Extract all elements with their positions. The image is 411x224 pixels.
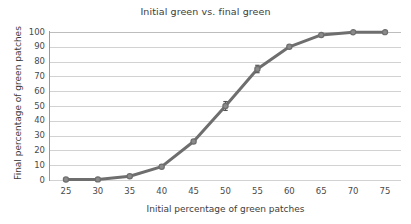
y-tick-label: 30 (5, 131, 45, 140)
x-tick-labels: 2530354045505560657075 (50, 186, 401, 200)
data-point-marker (351, 30, 356, 35)
data-point-marker (127, 174, 132, 179)
chart-title: Initial green vs. final green (0, 6, 411, 17)
x-tick-label: 55 (242, 186, 272, 196)
data-point-marker (287, 44, 292, 49)
y-tick-label: 40 (5, 116, 45, 125)
data-point-marker (159, 164, 164, 169)
x-tick-label: 25 (51, 186, 81, 196)
y-tick-label: 10 (5, 161, 45, 170)
y-tick-label: 50 (5, 102, 45, 111)
data-point-marker (319, 32, 324, 37)
y-tick-label: 70 (5, 72, 45, 81)
data-point-marker (95, 177, 100, 182)
x-tick-label: 35 (115, 186, 145, 196)
data-point-marker (382, 30, 387, 35)
data-point-marker (191, 139, 196, 144)
y-tick-label: 80 (5, 57, 45, 66)
y-tick-label: 60 (5, 87, 45, 96)
x-axis-title: Initial percentage of green patches (50, 204, 401, 214)
data-series-line (50, 32, 401, 180)
y-tick-label: 90 (5, 42, 45, 51)
x-tick-label: 30 (83, 186, 113, 196)
y-tick-label: 0 (5, 176, 45, 185)
data-point-marker (223, 103, 228, 108)
x-tick-label: 70 (338, 186, 368, 196)
y-tick-label: 20 (5, 146, 45, 155)
series-markers (63, 30, 387, 183)
y-tick-label: 100 (5, 28, 45, 37)
data-point-marker (255, 66, 260, 71)
data-point-marker (63, 177, 68, 182)
x-tick-label: 75 (370, 186, 400, 196)
x-tick-label: 45 (179, 186, 209, 196)
x-tick-label: 65 (306, 186, 336, 196)
x-tick-label: 40 (147, 186, 177, 196)
plot-area (50, 32, 401, 180)
x-tick-label: 60 (274, 186, 304, 196)
chart-figure: Initial green vs. final green Final perc… (0, 0, 411, 224)
y-tick-labels: 0102030405060708090100 (0, 32, 45, 180)
x-tick-label: 50 (211, 186, 241, 196)
